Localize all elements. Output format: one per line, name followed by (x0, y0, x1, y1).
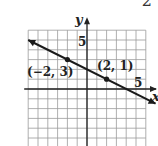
data-point (65, 57, 70, 62)
x-tick-label-5: 5 (134, 77, 142, 89)
point-label-a: (−2, 3) (27, 66, 73, 78)
point-label-b: (2, 1) (97, 60, 133, 72)
x-axis-label: x (152, 90, 158, 103)
data-point (104, 77, 109, 82)
y-tick-label-5: 5 (78, 36, 86, 48)
y-axis-label: y (75, 13, 83, 26)
